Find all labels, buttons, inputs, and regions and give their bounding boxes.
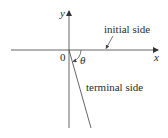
angle-theta-label: θ xyxy=(80,55,85,66)
initial-side-label: initial side xyxy=(104,24,150,35)
origin-label: 0 xyxy=(60,52,66,63)
y-axis-label: y xyxy=(60,8,65,19)
terminal-side-label: terminal side xyxy=(86,82,143,93)
angle-diagram xyxy=(0,0,168,138)
x-axis-label: x xyxy=(154,52,159,63)
initial-side-pointer xyxy=(106,36,113,49)
